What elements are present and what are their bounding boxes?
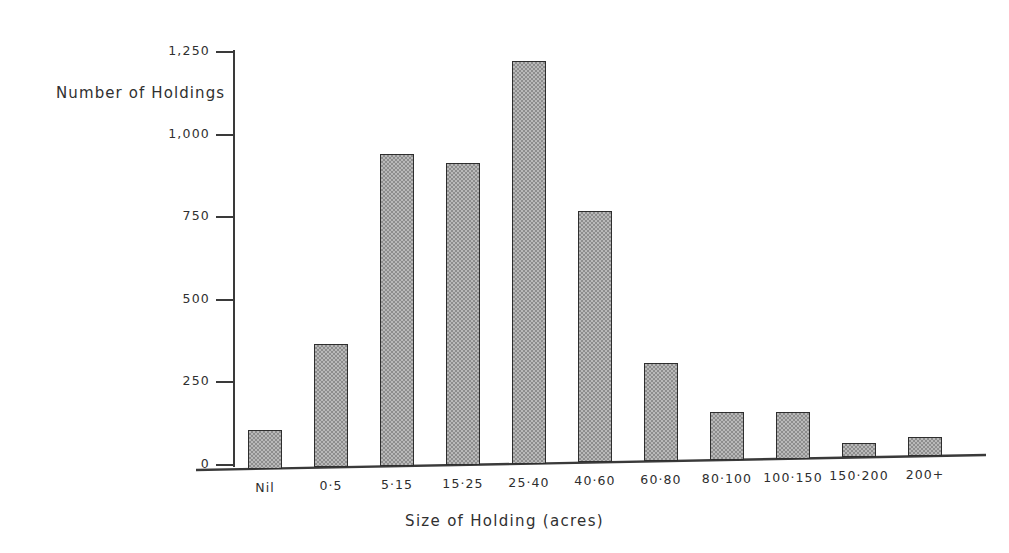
y-axis-tick-label-5: 1,250 [130, 43, 210, 58]
bar [578, 211, 612, 463]
bar [776, 412, 810, 458]
y-axis-tick-1 [216, 381, 234, 383]
bar [248, 430, 282, 469]
y-axis-tick-label-3: 750 [130, 208, 210, 223]
y-axis-tick-label-2: 500 [130, 291, 210, 306]
bar [380, 154, 414, 466]
bar [842, 443, 876, 458]
y-axis-line [233, 50, 235, 467]
bar [908, 437, 942, 456]
y-axis-tick-5 [216, 51, 234, 53]
y-axis-tick-label-1: 250 [130, 373, 210, 388]
bar [644, 363, 678, 461]
plot-area: Number of Holdings 02505007501,0001,250 … [0, 0, 1009, 553]
bar-chart: Number of Holdings 02505007501,0001,250 … [0, 0, 1009, 553]
y-axis-tick-2 [216, 299, 234, 301]
bar [314, 344, 348, 468]
y-axis-title: Number of Holdings [56, 84, 225, 102]
bar [710, 412, 744, 460]
x-axis-tick-label-10: 200+ [880, 467, 970, 482]
bar [512, 61, 546, 464]
x-axis-title: Size of Holding (acres) [0, 512, 1009, 530]
bar [446, 163, 480, 465]
y-axis-tick-label-4: 1,000 [130, 126, 210, 141]
y-axis-tick-3 [216, 216, 234, 218]
y-axis-tick-4 [216, 134, 234, 136]
